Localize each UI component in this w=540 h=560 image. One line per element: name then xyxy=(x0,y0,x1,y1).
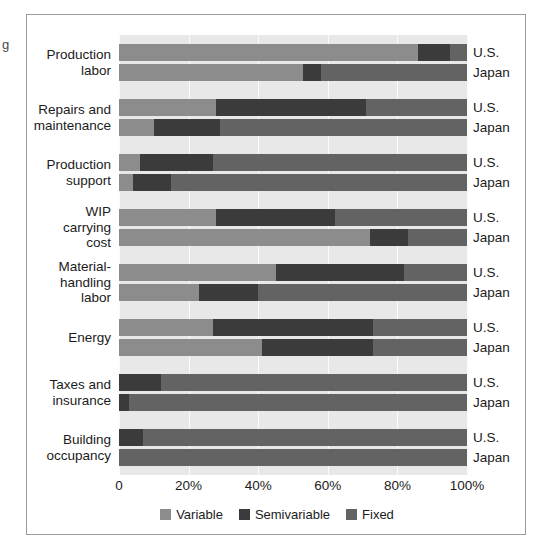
figure-frame: Production laborRepairs and maintenanceP… xyxy=(26,14,526,535)
bar-segment-fixed[interactable] xyxy=(129,394,467,411)
stacked-bar[interactable] xyxy=(119,449,467,466)
bar-segment-fixed[interactable] xyxy=(404,264,467,281)
bar-segment-variable[interactable] xyxy=(119,229,370,246)
legend-label: Fixed xyxy=(362,507,394,522)
stacked-bar[interactable] xyxy=(119,264,467,281)
bar-segment-fixed[interactable] xyxy=(258,284,467,301)
bar-segment-variable[interactable] xyxy=(119,319,213,336)
stacked-bar[interactable] xyxy=(119,319,467,336)
bar-segment-semivariable[interactable] xyxy=(119,374,161,391)
series-row-label: Japan xyxy=(473,449,510,466)
bar-segment-fixed[interactable] xyxy=(373,319,467,336)
stacked-bar[interactable] xyxy=(119,229,467,246)
bar-segment-variable[interactable] xyxy=(119,339,262,356)
bar-segment-fixed[interactable] xyxy=(161,374,467,391)
category-label: Taxes and insurance xyxy=(0,377,111,408)
series-row-label: U.S. xyxy=(473,154,499,171)
series-row-label: Japan xyxy=(473,284,510,301)
category-label: Production support xyxy=(0,157,111,188)
x-tick-label: 80% xyxy=(384,478,411,493)
stacked-bar[interactable] xyxy=(119,429,467,446)
series-row-label: Japan xyxy=(473,119,510,136)
bar-segment-semivariable[interactable] xyxy=(154,119,220,136)
bar-segment-semivariable[interactable] xyxy=(119,429,143,446)
category-label: Production labor xyxy=(0,47,111,78)
series-row-label: Japan xyxy=(473,229,510,246)
category-label: Repairs and maintenance xyxy=(0,102,111,133)
legend-swatch-icon xyxy=(160,509,171,520)
bar-segment-fixed[interactable] xyxy=(335,209,467,226)
stacked-bar[interactable] xyxy=(119,174,467,191)
bar-segment-fixed[interactable] xyxy=(143,429,467,446)
stacked-bar[interactable] xyxy=(119,284,467,301)
series-row-label: Japan xyxy=(473,174,510,191)
series-row-label: U.S. xyxy=(473,99,499,116)
bar-segment-semivariable[interactable] xyxy=(418,44,449,61)
bar-segment-semivariable[interactable] xyxy=(276,264,405,281)
bar-segment-variable[interactable] xyxy=(119,209,216,226)
bar-segment-semivariable[interactable] xyxy=(133,174,171,191)
bar-segment-fixed[interactable] xyxy=(213,154,467,171)
bar-segment-variable[interactable] xyxy=(119,99,216,116)
bar-segment-variable[interactable] xyxy=(119,64,303,81)
x-tick-label: 60% xyxy=(314,478,341,493)
series-row-labels: U.S.JapanU.S.JapanU.S.JapanU.S.JapanU.S.… xyxy=(473,35,540,475)
stacked-bar[interactable] xyxy=(119,394,467,411)
category-label: Material- handling labor xyxy=(0,259,111,306)
bar-segment-variable[interactable] xyxy=(119,154,140,171)
bar-segment-semivariable[interactable] xyxy=(370,229,408,246)
legend-swatch-icon xyxy=(346,509,357,520)
x-axis-tick-labels: 020%40%60%80%100% xyxy=(119,478,467,498)
series-row-label: U.S. xyxy=(473,44,499,61)
bar-segment-semivariable[interactable] xyxy=(213,319,373,336)
stacked-bar[interactable] xyxy=(119,64,467,81)
bar-segment-semivariable[interactable] xyxy=(262,339,373,356)
stacked-bar-chart: Production laborRepairs and maintenanceP… xyxy=(27,15,527,536)
stacked-bar[interactable] xyxy=(119,154,467,171)
bar-segment-variable[interactable] xyxy=(119,264,276,281)
stacked-bar[interactable] xyxy=(119,339,467,356)
plot-area: Production laborRepairs and maintenanceP… xyxy=(119,35,467,475)
bar-segment-fixed[interactable] xyxy=(119,449,467,466)
bar-segment-variable[interactable] xyxy=(119,119,154,136)
bar-segment-variable[interactable] xyxy=(119,174,133,191)
stacked-bar[interactable] xyxy=(119,374,467,391)
series-row-label: U.S. xyxy=(473,429,499,446)
legend-item[interactable]: Fixed xyxy=(346,507,394,522)
category-label: WIP carrying cost xyxy=(0,204,111,251)
bar-segment-fixed[interactable] xyxy=(450,44,467,61)
series-row-label: U.S. xyxy=(473,374,499,391)
category-label: Building occupancy xyxy=(0,432,111,463)
series-row-label: U.S. xyxy=(473,264,499,281)
series-row-label: U.S. xyxy=(473,319,499,336)
legend-swatch-icon xyxy=(239,509,250,520)
legend-item[interactable]: Semivariable xyxy=(239,507,330,522)
bar-segment-variable[interactable] xyxy=(119,44,418,61)
bar-segment-semivariable[interactable] xyxy=(119,394,129,411)
x-tick-label: 20% xyxy=(175,478,202,493)
stacked-bar[interactable] xyxy=(119,119,467,136)
bar-segment-semivariable[interactable] xyxy=(303,64,320,81)
x-tick-label: 40% xyxy=(245,478,272,493)
gridline xyxy=(467,35,468,475)
stacked-bar[interactable] xyxy=(119,209,467,226)
bar-segment-semivariable[interactable] xyxy=(199,284,258,301)
bar-segment-fixed[interactable] xyxy=(220,119,467,136)
x-tick-label: 100% xyxy=(450,478,485,493)
bar-segment-variable[interactable] xyxy=(119,284,199,301)
stacked-bar[interactable] xyxy=(119,99,467,116)
bar-segment-semivariable[interactable] xyxy=(140,154,213,171)
bar-segment-fixed[interactable] xyxy=(171,174,467,191)
stacked-bar[interactable] xyxy=(119,44,467,61)
series-row-label: Japan xyxy=(473,64,510,81)
legend-item[interactable]: Variable xyxy=(160,507,223,522)
bar-segment-semivariable[interactable] xyxy=(216,209,334,226)
bar-segment-fixed[interactable] xyxy=(408,229,467,246)
bar-segment-fixed[interactable] xyxy=(373,339,467,356)
legend-label: Variable xyxy=(176,507,223,522)
category-axis-labels: Production laborRepairs and maintenanceP… xyxy=(0,35,111,475)
bar-segment-semivariable[interactable] xyxy=(216,99,366,116)
bar-segment-fixed[interactable] xyxy=(321,64,467,81)
series-row-label: U.S. xyxy=(473,209,499,226)
bar-segment-fixed[interactable] xyxy=(366,99,467,116)
